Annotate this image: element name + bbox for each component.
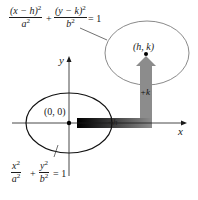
translated-center-point — [144, 52, 148, 56]
translated-equation-leader-line — [80, 28, 107, 40]
horizontal-shift-label: +h — [107, 118, 118, 127]
original-eq-term2: y2 b2 — [39, 161, 49, 184]
vertical-shift-arrowhead — [136, 56, 156, 66]
y-axis-arrowhead — [67, 56, 72, 62]
original-eq-term1: x2 a2 — [11, 161, 21, 184]
x-axis-label: x — [178, 126, 183, 137]
translated-eq-term1: (x − h)2 a2 — [9, 6, 42, 29]
origin-label: (0, 0) — [44, 107, 66, 117]
origin-point — [67, 121, 71, 125]
translated-eq-plus: + — [46, 14, 52, 24]
vertical-shift-label: +k — [140, 88, 150, 97]
original-eq-equals: = 1 — [53, 169, 66, 179]
translated-eq-equals: = 1 — [88, 14, 101, 24]
translated-center-label: (h, k) — [133, 42, 154, 52]
translated-eq-term2: (y − k)2 b2 — [54, 6, 87, 29]
original-eq-plus: + — [30, 169, 36, 179]
y-axis-label: y — [59, 55, 64, 66]
